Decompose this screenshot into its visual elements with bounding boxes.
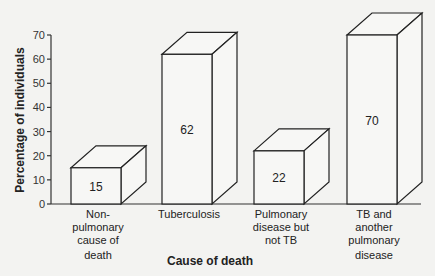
bar-side-face: [212, 32, 237, 204]
category-label: Tuberculosis: [158, 208, 220, 220]
y-tick-label: 60: [33, 53, 45, 65]
bar-side-face: [397, 13, 422, 204]
category-label: pulmonary: [72, 221, 124, 233]
category-label: death: [84, 249, 112, 261]
category-label: TB and: [356, 208, 391, 220]
bar-chart: 010203040506070Percentage of individuals…: [0, 0, 435, 276]
category-label: cause of: [77, 234, 120, 246]
x-axis-label: Cause of death: [167, 254, 253, 268]
y-tick-label: 20: [33, 150, 45, 162]
bar-value-label: 15: [89, 180, 103, 194]
category-label: pulmonary: [348, 234, 400, 246]
category-label: not TB: [265, 234, 297, 246]
y-tick-label: 30: [33, 126, 45, 138]
y-tick-label: 70: [33, 29, 45, 41]
category-label: Non-: [86, 208, 110, 220]
y-tick-label: 10: [33, 174, 45, 186]
y-tick-label: 50: [33, 77, 45, 89]
y-axis-label: Percentage of individuals: [13, 47, 27, 193]
y-tick-label: 40: [33, 101, 45, 113]
bar-value-label: 70: [365, 114, 379, 128]
bar-value-label: 22: [272, 171, 286, 185]
category-label: disease but: [253, 221, 309, 233]
y-tick-label: 0: [39, 198, 45, 210]
bar-value-label: 62: [180, 123, 194, 137]
category-label: disease: [355, 249, 393, 261]
category-label: Pulmonary: [255, 208, 308, 220]
category-label: another: [355, 221, 393, 233]
